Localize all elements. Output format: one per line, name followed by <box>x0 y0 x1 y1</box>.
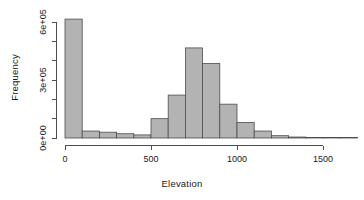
x-tick-label: 0 <box>62 154 67 164</box>
y-tick-label: 6e+05 <box>38 9 48 34</box>
y-tick-label: 0e+00 <box>38 125 48 150</box>
histogram-bar <box>271 136 288 138</box>
x-tick-label: 1000 <box>227 154 247 164</box>
x-tick-label: 500 <box>143 154 158 164</box>
histogram-bar <box>340 137 357 138</box>
histogram-bar <box>65 19 82 138</box>
histogram-bar <box>185 48 202 138</box>
histogram-bar <box>289 137 306 138</box>
chart-canvas: 050010001500 0e+003e+056e+05 <box>0 0 364 200</box>
y-tick-labels: 0e+003e+056e+05 <box>38 9 48 150</box>
histogram-bar <box>134 135 151 138</box>
histogram-bar <box>168 95 185 138</box>
histogram-bar <box>82 131 99 138</box>
histogram-bar <box>99 132 116 138</box>
histogram-bar <box>117 134 134 138</box>
histogram-bar <box>151 119 168 138</box>
histogram-bar <box>306 137 323 138</box>
histogram-plot: 050010001500 0e+003e+056e+05 Elevation F… <box>0 0 364 200</box>
y-axis-title: Frequency <box>9 33 20 123</box>
x-axis <box>65 146 323 151</box>
x-tick-labels: 050010001500 <box>62 154 333 164</box>
histogram-bar <box>254 131 271 138</box>
histogram-bar <box>203 64 220 138</box>
bars-group <box>65 19 357 138</box>
x-tick-label: 1500 <box>313 154 333 164</box>
y-tick-label: 3e+05 <box>38 67 48 92</box>
histogram-bar <box>237 123 254 138</box>
x-axis-title: Elevation <box>0 178 364 189</box>
histogram-bar <box>220 104 237 138</box>
y-axis <box>52 22 57 138</box>
histogram-bar <box>323 137 340 138</box>
